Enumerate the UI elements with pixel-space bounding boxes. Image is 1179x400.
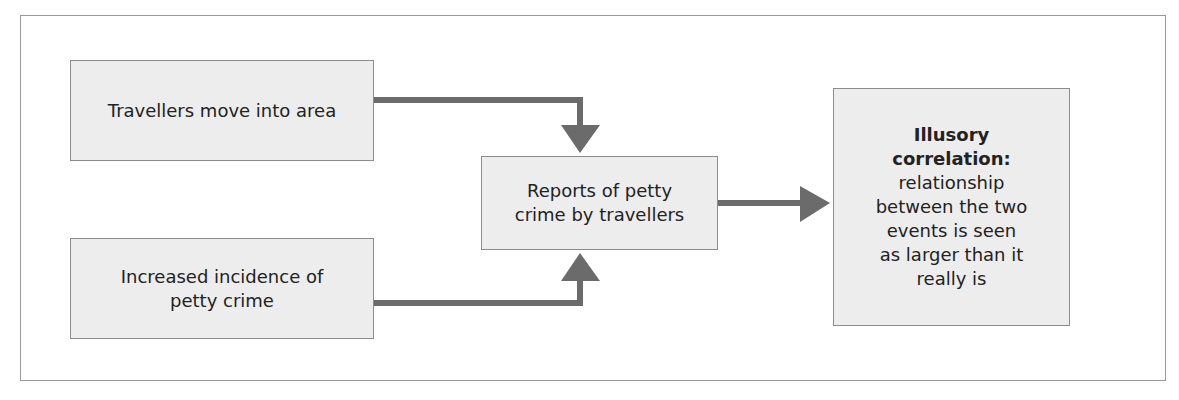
box-text: Reports of petty: [515, 179, 685, 203]
arrow-right-head-icon: [800, 186, 830, 222]
box-text: Travellers move into area: [108, 99, 336, 123]
box-travellers-move: Travellers move into area: [70, 60, 374, 161]
box-reports-petty-crime: Reports of petty crime by travellers: [481, 156, 718, 250]
box-text: between the two: [876, 195, 1028, 219]
box-text: Increased incidence of: [121, 265, 324, 289]
arrow-travellers-vertical: [577, 97, 583, 127]
box-text: crime by travellers: [515, 203, 685, 227]
box-text: really is: [917, 267, 987, 291]
box-text: petty crime: [121, 289, 324, 313]
box-title: correlation:: [892, 147, 1010, 171]
arrow-travellers-horizontal: [373, 97, 583, 103]
box-title: Illusory: [914, 123, 990, 147]
box-text: as larger than it: [880, 243, 1024, 267]
box-illusory-correlation: Illusory correlation: relationship betwe…: [833, 88, 1070, 326]
arrow-down-head-icon: [561, 125, 600, 153]
box-text: relationship: [899, 171, 1005, 195]
arrow-crime-vertical: [577, 278, 583, 306]
arrow-crime-horizontal: [373, 300, 583, 306]
arrow-reports-horizontal: [717, 200, 803, 206]
box-increased-crime: Increased incidence of petty crime: [70, 238, 374, 339]
arrow-up-head-icon: [561, 253, 600, 281]
box-text: events is seen: [887, 219, 1016, 243]
